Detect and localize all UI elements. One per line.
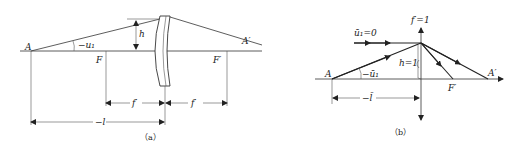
label-focal: f′=1 xyxy=(410,15,430,25)
label-minus-l: −l xyxy=(95,117,106,127)
panel-b: f′=1 ū₁=0 A −ū₁ h=1 F′ A′ −l̄ （b） xyxy=(315,15,503,137)
panel-a: A A′ F F′ h −u₁ f′ f′ −l （a） xyxy=(20,16,262,142)
ray-Aprime-arrow xyxy=(421,43,460,64)
label-A: A xyxy=(24,42,32,52)
label-angle-ubar: −ū₁ xyxy=(362,69,379,79)
label-F: F xyxy=(95,55,103,65)
angle-arc-a xyxy=(73,41,74,51)
label-F-prime: F′ xyxy=(212,55,221,65)
label-angle-u1: −u₁ xyxy=(78,40,95,50)
angle-arc-b xyxy=(359,68,361,79)
caption-a: （a） xyxy=(140,133,161,142)
label-minus-lbar: −l̄ xyxy=(362,92,374,103)
label-A-prime-b: A′ xyxy=(487,68,497,78)
label-A-b: A xyxy=(324,69,332,79)
label-h1: h=1 xyxy=(399,58,418,68)
caption-b: （b） xyxy=(390,128,411,137)
label-A-prime: A′ xyxy=(241,36,251,46)
h-indicator xyxy=(418,45,421,79)
label-f-right: f′ xyxy=(190,98,196,108)
label-f-left: f′ xyxy=(131,98,137,108)
ray-Fprime-arrow xyxy=(421,43,441,66)
label-h: h xyxy=(139,29,145,39)
label-F-prime-b: F′ xyxy=(447,83,456,93)
diagram-canvas: A A′ F F′ h −u₁ f′ f′ −l （a） xyxy=(0,0,520,149)
label-parallel-ray: ū₁=0 xyxy=(354,28,377,38)
